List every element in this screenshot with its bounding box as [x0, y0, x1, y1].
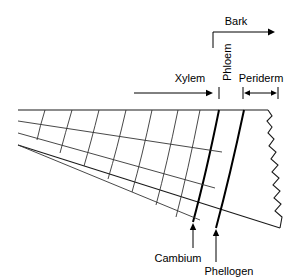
xylem-label: Xylem: [175, 72, 206, 84]
xylem-annotation-group: [134, 87, 219, 99]
growth-arc-group: [37, 110, 200, 217]
cambium-arrowhead-icon: [190, 223, 196, 230]
periderm-arrowhead-right-icon: [271, 90, 277, 96]
cambium-annotation-group: [190, 223, 196, 248]
periderm-annotation-group: [243, 87, 278, 99]
radial-ray: [18, 121, 222, 152]
radial-ray: [18, 133, 215, 188]
growth-arc: [156, 110, 178, 205]
phellogen-annotation-group: [213, 229, 219, 262]
radial-ray: [18, 145, 200, 220]
bark-arrowhead-icon: [268, 29, 275, 36]
xylem-arrowhead-icon: [206, 90, 213, 96]
periderm-arrowhead-left-icon: [244, 90, 250, 96]
phloem-label: Phloem: [221, 44, 233, 81]
outer-bark-surface: [267, 110, 282, 228]
periderm-label: Periderm: [239, 72, 284, 84]
phellogen-label: Phellogen: [205, 265, 254, 277]
growth-arc: [108, 110, 126, 179]
phellogen-boundary-arc: [216, 110, 244, 228]
growth-arc: [132, 110, 152, 192]
wedge-outline-group: [18, 110, 282, 228]
wedge-bottom-edge: [18, 145, 280, 228]
diagram-root: Bark Xylem Phloem Periderm: [0, 0, 304, 279]
growth-arc: [84, 110, 99, 166]
bark-label: Bark: [225, 15, 248, 27]
stem-cross-section-diagram: Bark Xylem Phloem Periderm: [0, 0, 304, 279]
cambium-label: Cambium: [154, 252, 201, 264]
phellogen-arrowhead-icon: [213, 229, 219, 236]
